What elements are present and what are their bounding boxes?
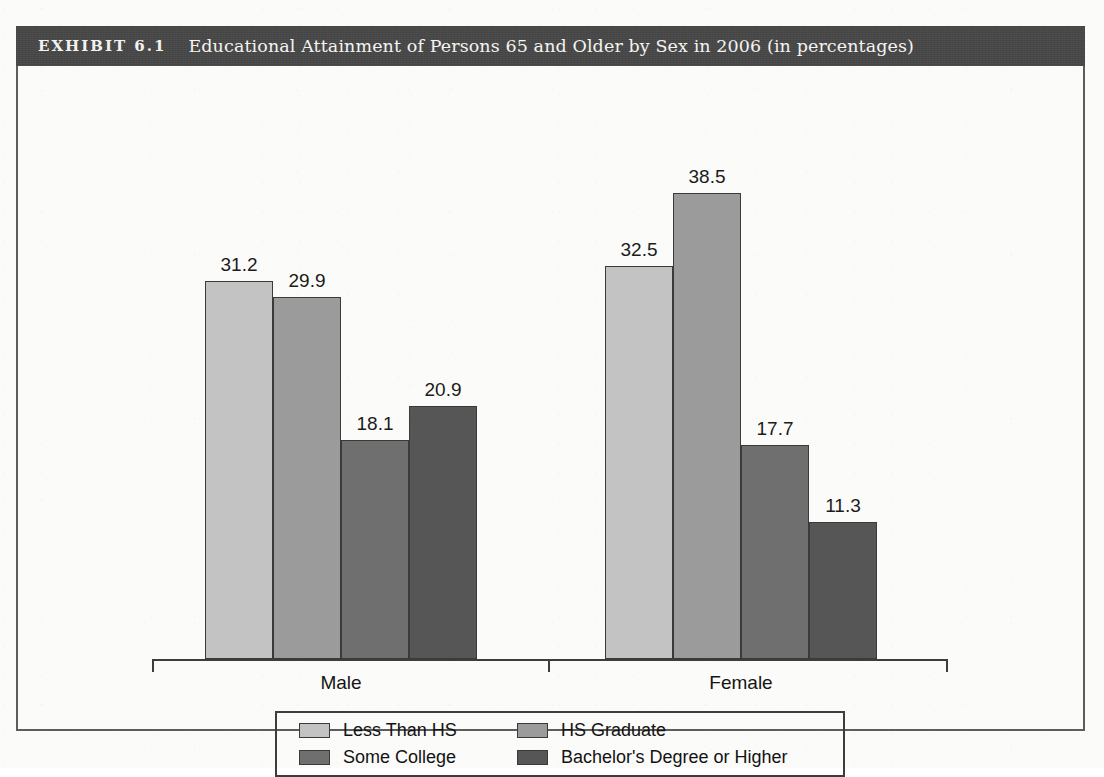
legend-label: Less Than HS	[343, 720, 457, 741]
bar-value-label: 17.7	[725, 418, 825, 440]
x-axis-tick-center	[548, 659, 550, 672]
x-axis-tick-right	[946, 659, 948, 672]
legend-swatch-icon	[299, 750, 330, 765]
bar-value-label: 20.9	[393, 379, 493, 401]
bar-male-bachelor-s-degree-or-higher	[409, 406, 477, 659]
legend-item: Less Than HS	[299, 720, 517, 741]
legend-item: HS Graduate	[517, 720, 843, 741]
x-axis-tick-left	[152, 659, 154, 672]
exhibit-banner: EXHIBIT 6.1 Educational Attainment of Pe…	[16, 26, 1085, 66]
bar-value-label: 32.5	[589, 239, 689, 261]
bar-male-hs-graduate	[273, 297, 341, 659]
bar-female-bachelor-s-degree-or-higher	[809, 522, 877, 659]
bar-value-label: 11.3	[793, 495, 893, 517]
bar-value-label: 38.5	[657, 166, 757, 188]
bar-value-label: 18.1	[325, 413, 425, 435]
legend-label: Bachelor's Degree or Higher	[561, 747, 788, 768]
bar-male-less-than-hs	[205, 281, 273, 659]
legend-swatch-icon	[517, 723, 548, 738]
legend-swatch-icon	[299, 723, 330, 738]
legend-swatch-icon	[517, 750, 548, 765]
chart-legend: Less Than HSHS GraduateSome CollegeBache…	[275, 711, 845, 777]
bar-value-label: 29.9	[257, 270, 357, 292]
bar-female-some-college	[741, 445, 809, 659]
legend-item: Bachelor's Degree or Higher	[517, 747, 843, 768]
exhibit-number-label: EXHIBIT 6.1	[38, 37, 166, 55]
legend-label: HS Graduate	[561, 720, 666, 741]
group-label-female: Female	[661, 672, 821, 694]
bar-male-some-college	[341, 440, 409, 659]
legend-item: Some College	[299, 747, 517, 768]
bar-chart-plot-area: 31.229.918.120.932.538.517.711.3 MaleFem…	[0, 66, 1104, 626]
exhibit-title: Educational Attainment of Persons 65 and…	[188, 36, 914, 56]
x-axis-line	[152, 659, 948, 661]
group-label-male: Male	[261, 672, 421, 694]
legend-label: Some College	[343, 747, 456, 768]
bar-female-less-than-hs	[605, 266, 673, 659]
